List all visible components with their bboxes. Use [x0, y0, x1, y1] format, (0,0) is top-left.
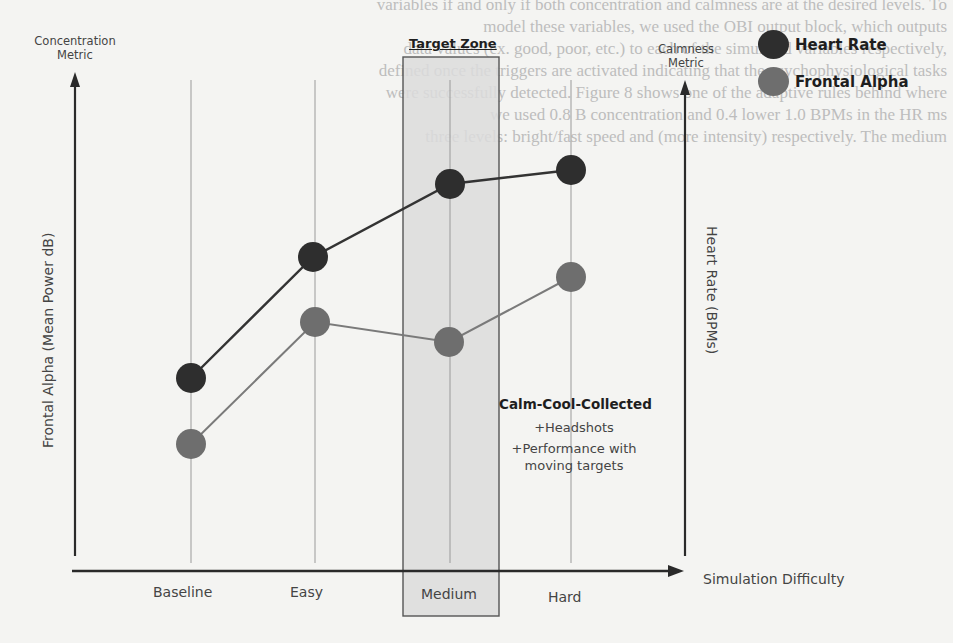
legend-label: Frontal Alpha: [795, 73, 909, 91]
annotation-line: +Performance with: [499, 440, 649, 457]
x-axis-arrow-icon: [668, 565, 684, 577]
left-axis-caption: Concentration Metric: [25, 34, 125, 62]
left-axis-label: Frontal Alpha (Mean Power dB): [40, 233, 56, 448]
annotation-box: Calm-Cool-Collected +Headshots +Performa…: [499, 396, 649, 474]
legend-item-frontal-alpha: Frontal Alpha: [758, 67, 909, 96]
data-point: [434, 327, 464, 357]
data-point: [176, 363, 206, 393]
chart-canvas: [0, 0, 953, 643]
right-axis-caption: Calmness Metric: [648, 42, 724, 70]
caption-line: Concentration: [25, 34, 125, 48]
caption-line: Calmness: [648, 42, 724, 56]
heart-rate-swatch-icon: [758, 30, 789, 59]
caption-line: Metric: [648, 56, 724, 70]
annotation-line: +Headshots: [499, 419, 649, 436]
right-axis-arrow-icon: [680, 80, 690, 95]
tick-baseline: Baseline: [153, 584, 212, 600]
x-axis-label: Simulation Difficulty: [703, 571, 844, 587]
data-point: [300, 307, 330, 337]
data-point: [298, 242, 328, 272]
right-axis-label: Heart Rate (BPMs): [704, 226, 720, 354]
legend-item-heart-rate: Heart Rate: [758, 30, 887, 59]
heart-rate-points: [176, 155, 586, 393]
data-point: [556, 155, 586, 185]
tick-medium: Medium: [421, 586, 477, 602]
tick-hard: Hard: [548, 589, 582, 605]
tick-easy: Easy: [290, 584, 323, 600]
frontal-alpha-swatch-icon: [758, 67, 789, 96]
caption-line: Metric: [25, 48, 125, 62]
target-zone-title: Target Zone: [409, 36, 497, 51]
data-point: [176, 429, 206, 459]
data-point: [435, 169, 465, 199]
data-point: [556, 262, 586, 292]
annotation-line: moving targets: [499, 457, 649, 474]
legend-label: Heart Rate: [795, 36, 887, 54]
annotation-title: Calm-Cool-Collected: [499, 396, 649, 413]
left-axis-arrow-icon: [70, 72, 80, 87]
heart-rate-line: [191, 170, 571, 378]
